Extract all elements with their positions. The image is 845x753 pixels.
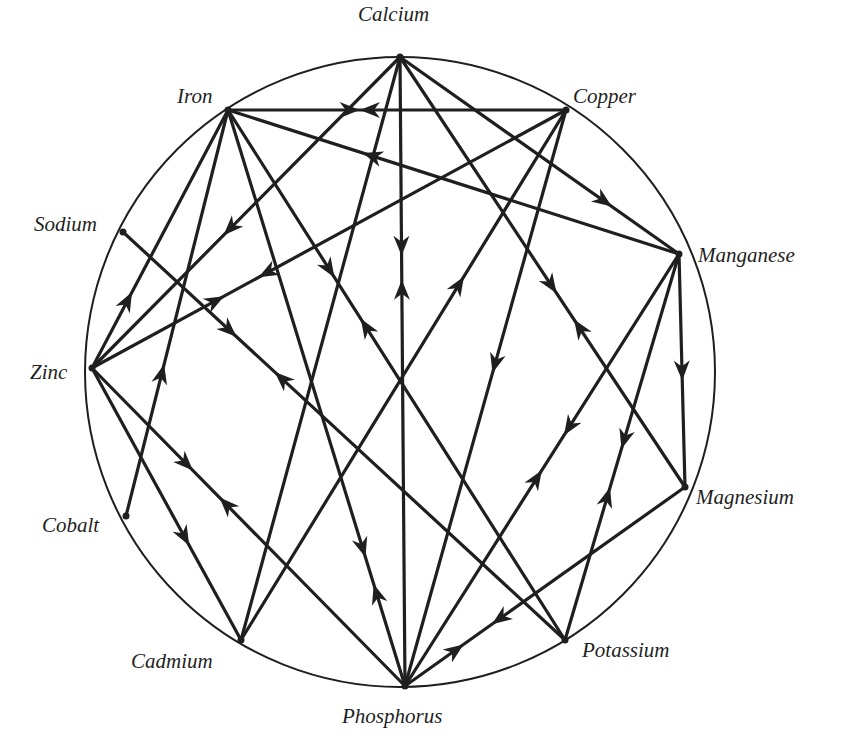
node-magnesium — [682, 484, 689, 491]
arrowhead-icon — [443, 644, 464, 662]
edge-zinc-phosphorus — [92, 368, 405, 686]
arrowhead-icon — [317, 256, 334, 277]
edge-iron-phosphorus — [228, 110, 405, 686]
arrowhead-icon — [361, 319, 378, 340]
arrowhead-icon — [564, 414, 581, 435]
arrowhead-icon — [591, 189, 612, 207]
node-label-zinc: Zinc — [30, 362, 67, 383]
node-label-cadmium: Cadmium — [131, 651, 213, 672]
node-calcium — [397, 54, 404, 61]
node-label-cobalt: Cobalt — [42, 515, 99, 536]
node-manganese — [676, 251, 683, 258]
edge-calcium-zinc — [92, 57, 400, 368]
edge-calcium-cadmium — [241, 57, 400, 640]
node-cadmium — [238, 637, 245, 644]
node-label-manganese: Manganese — [698, 245, 795, 266]
arrowhead-icon — [447, 276, 464, 297]
arrowhead-icon — [574, 320, 592, 341]
edge-manganese-phosphorus — [405, 254, 679, 686]
node-cobalt — [123, 513, 130, 520]
edge-manganese-iron — [228, 110, 679, 254]
node-zinc — [89, 365, 96, 372]
node-label-copper: Copper — [573, 86, 636, 107]
node-iron — [225, 107, 232, 114]
node-label-magnesium: Magnesium — [696, 487, 794, 508]
node-label-sodium: Sodium — [34, 214, 97, 235]
node-phosphorus — [402, 683, 409, 690]
arrowhead-icon — [492, 606, 513, 624]
node-potassium — [562, 637, 569, 644]
edges-group — [92, 57, 685, 686]
node-label-phosphorus: Phosphorus — [342, 706, 442, 727]
node-label-calcium: Calcium — [358, 4, 429, 25]
arrowhead-icon — [539, 272, 557, 293]
node-label-potassium: Potassium — [582, 640, 670, 661]
arrowhead-icon — [524, 470, 541, 491]
node-sodium — [120, 229, 127, 236]
node-label-iron: Iron — [177, 86, 212, 107]
edge-copper-zinc — [92, 110, 566, 368]
edge-copper-phosphorus — [405, 110, 566, 686]
node-copper — [563, 107, 570, 114]
element-network-diagram — [0, 0, 845, 753]
